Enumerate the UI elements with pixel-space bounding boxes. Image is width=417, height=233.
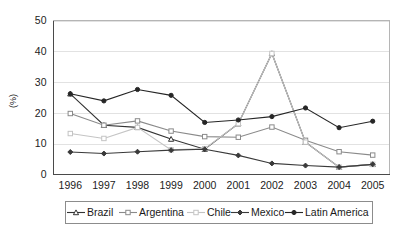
legend-label: Chile <box>207 206 231 218</box>
y-tick-label: 10 <box>35 137 47 149</box>
chart-container: 50403020100 1996199719981999200020012002… <box>0 0 417 233</box>
y-tick-label: 40 <box>35 45 47 57</box>
y-tick-label: 20 <box>35 107 47 119</box>
line-chart: 50403020100 1996199719981999200020012002… <box>0 0 417 233</box>
y-axis-title: (%) <box>8 94 18 108</box>
series-brazil <box>68 51 376 169</box>
y-tick-label: 50 <box>35 14 47 26</box>
y-axis-ticks: 50403020100 <box>35 14 47 180</box>
x-axis-ticks: 1996199719981999200020012002200320042005 <box>59 179 385 191</box>
series-mexico <box>68 147 375 170</box>
legend-label: Latin America <box>305 206 369 218</box>
x-tick-label: 2003 <box>294 179 318 191</box>
x-tick-label: 2005 <box>361 179 385 191</box>
x-tick-label: 2001 <box>227 179 251 191</box>
data-series <box>68 51 376 170</box>
x-tick-label: 2004 <box>327 179 351 191</box>
legend-label: Argentina <box>139 206 184 218</box>
x-tick-label: 1997 <box>92 179 116 191</box>
x-tick-label: 2000 <box>193 179 217 191</box>
y-tick-label: 0 <box>41 168 47 180</box>
series-chile <box>68 51 375 169</box>
x-tick-label: 1999 <box>159 179 183 191</box>
x-tick-label: 1996 <box>59 179 83 191</box>
legend: BrazilArgentinaChileMexicoLatin America <box>67 206 369 218</box>
x-tick-label: 2002 <box>260 179 284 191</box>
x-tick-label: 1998 <box>126 179 150 191</box>
legend-label: Mexico <box>251 206 284 218</box>
y-tick-label: 30 <box>35 76 47 88</box>
legend-label: Brazil <box>87 206 113 218</box>
series-argentina <box>68 111 375 157</box>
